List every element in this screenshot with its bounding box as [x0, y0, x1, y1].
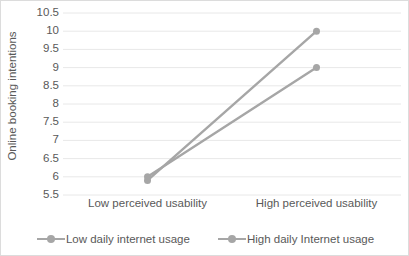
legend-entry[interactable]: High daily Internet usage	[218, 233, 374, 245]
y-tick-label: 8	[21, 98, 59, 110]
data-point-marker	[313, 64, 320, 71]
legend-marker-icon	[218, 233, 246, 245]
x-tick-label: Low perceived usability	[88, 197, 207, 209]
chart-legend: Low daily internet usageHigh daily Inter…	[1, 227, 409, 251]
data-series	[144, 28, 320, 184]
x-tick-label: High perceived usability	[256, 197, 377, 209]
series-line	[148, 31, 317, 180]
y-axis-tick-labels: 5.566.577.588.599.51010.5	[21, 1, 59, 196]
y-tick-label: 5.5	[21, 189, 59, 201]
data-point-marker	[144, 177, 151, 184]
data-point-marker	[313, 28, 320, 35]
interaction-line-chart: Online booking intentions 5.566.577.588.…	[0, 0, 409, 256]
y-tick-label: 8.5	[21, 80, 59, 92]
plot-area	[63, 13, 401, 195]
y-tick-label: 10	[21, 25, 59, 37]
y-tick-label: 7	[21, 135, 59, 147]
y-tick-label: 9.5	[21, 44, 59, 56]
legend-label: High daily Internet usage	[246, 233, 374, 245]
y-axis-title-label: Online booking intentions	[6, 31, 18, 160]
x-axis-tick-labels: Low perceived usabilityHigh perceived us…	[63, 197, 401, 217]
legend-label: Low daily internet usage	[65, 233, 190, 245]
legend-entry[interactable]: Low daily internet usage	[37, 233, 190, 245]
y-tick-label: 6.5	[21, 153, 59, 165]
gridlines	[63, 13, 401, 195]
y-tick-label: 9	[21, 62, 59, 74]
plot-svg	[63, 13, 401, 195]
y-axis-title: Online booking intentions	[3, 1, 21, 191]
y-tick-label: 7.5	[21, 116, 59, 128]
y-tick-label: 6	[21, 171, 59, 183]
y-tick-label: 10.5	[21, 7, 59, 19]
legend-marker-icon	[37, 233, 65, 245]
